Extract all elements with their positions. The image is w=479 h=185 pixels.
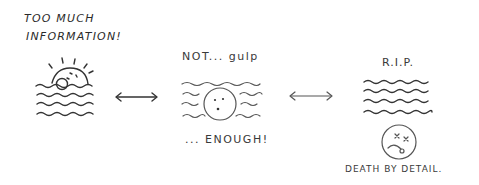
face-drowning-in-waves-icon bbox=[182, 83, 262, 121]
sun-setting-over-waves-icon bbox=[36, 58, 93, 116]
double-arrow-icon bbox=[116, 93, 157, 101]
drawing-layer bbox=[0, 0, 479, 185]
waves-icon bbox=[364, 81, 432, 114]
dead-face-icon bbox=[382, 125, 416, 159]
illustration: TOO MUCH INFORMATION! NOT... gulp ... EN… bbox=[0, 0, 479, 185]
double-arrow-icon bbox=[290, 92, 332, 100]
